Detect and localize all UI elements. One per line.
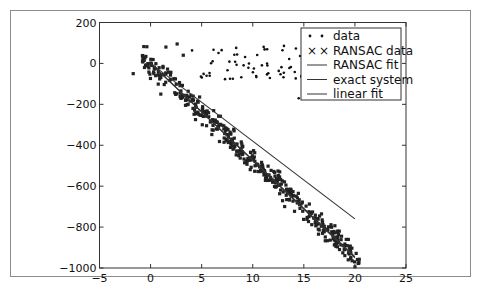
legend-label: RANSAC fit (333, 58, 399, 72)
x-tick-label: 0 (147, 272, 154, 285)
legend: data××RANSAC dataRANSAC fitexact systeml… (301, 28, 413, 101)
y-tick-label: −400 (66, 139, 96, 152)
y-tick-label: −800 (66, 221, 96, 234)
x-tick-label: 20 (348, 272, 362, 285)
x-tick-label: 25 (399, 272, 413, 285)
legend-label: data (333, 29, 360, 43)
y-tick-label: −1000 (59, 262, 96, 275)
svg-text:×: × (319, 44, 329, 58)
y-tick-label: −600 (66, 180, 96, 193)
x-tick-label: 5 (198, 272, 205, 285)
y-tick-label: 0 (90, 57, 97, 70)
legend-label: linear fit (333, 87, 383, 101)
x-tick-label: 15 (297, 272, 311, 285)
legend-label: RANSAC data (333, 44, 413, 58)
chart: −50510152025 2000−200−400−600−800−1000 d… (0, 0, 478, 292)
svg-text:×: × (307, 44, 317, 58)
y-tick-label: −200 (66, 98, 96, 111)
y-tick-label: 200 (76, 17, 97, 30)
legend-label: exact system (333, 73, 413, 87)
x-tick-label: 10 (246, 272, 260, 285)
